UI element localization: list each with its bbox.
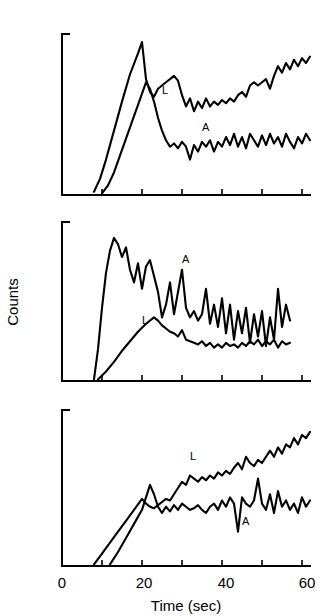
xtick-label-60: 60 [299, 574, 316, 591]
xtick-label-0: 0 [58, 574, 66, 591]
panel-top: L A [62, 34, 310, 195]
panel-middle-trace-L [98, 317, 290, 379]
panel-middle-label-A: A [182, 253, 190, 265]
panel-middle: A L [62, 222, 310, 381]
x-axis-title: Time (sec) [151, 597, 221, 614]
three-panel-line-chart: L A A L L A 0 20 40 60 Time (sec) [0, 0, 327, 616]
xtick-label-40: 40 [218, 574, 235, 591]
panel-top-label-A: A [202, 121, 210, 133]
panel-middle-label-L: L [142, 314, 148, 326]
panel-bottom-axes [62, 410, 310, 566]
y-axis-title: Counts [4, 278, 21, 326]
panel-bottom-label-L: L [190, 450, 196, 462]
xtick-label-20: 20 [136, 574, 153, 591]
figure-container: L A A L L A 0 20 40 60 Time (sec) [0, 0, 327, 616]
panel-top-axes [62, 34, 310, 195]
panel-middle-trace-A [94, 238, 290, 380]
panel-top-trace-L [94, 42, 310, 192]
panel-top-label-L: L [162, 84, 168, 96]
panel-bottom-trace-A [110, 479, 310, 565]
x-axis-tick-labels: 0 20 40 60 [58, 574, 316, 591]
panel-bottom: L A [62, 410, 310, 566]
panel-bottom-label-A: A [242, 515, 250, 527]
